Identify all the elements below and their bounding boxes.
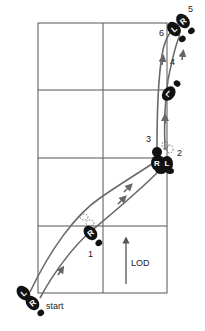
path-arrow-5	[162, 58, 163, 65]
footprint-label-left: L	[165, 159, 170, 168]
footprint-step23-cluster: R L	[151, 147, 174, 174]
footprint-label-right: R	[154, 159, 160, 168]
floor-grid	[38, 23, 167, 293]
path-arrow-3	[58, 269, 62, 275]
step-label-3: 3	[146, 134, 151, 144]
step-label-5: 5	[188, 4, 193, 14]
step-label-6: 6	[159, 28, 164, 38]
lod-label: LOD	[131, 258, 150, 268]
footwork-diagram: L R R R L L R L 1 2 3 4 5	[0, 0, 205, 331]
path-arrow-6	[182, 53, 183, 60]
line-of-dance-indicator: LOD	[126, 240, 150, 284]
footprint-step1-right: R	[81, 223, 106, 249]
step-label-4: 4	[170, 57, 175, 67]
path-arrow-2	[124, 186, 130, 192]
step-label-2: 2	[177, 148, 182, 158]
path-right-foot-lower	[40, 170, 160, 298]
start-label: start	[46, 301, 64, 311]
step-label-1: 1	[88, 249, 93, 259]
